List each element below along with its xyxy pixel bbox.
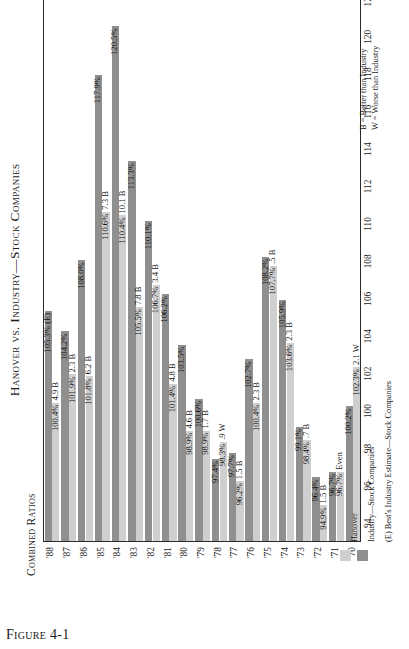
legend-swatch-0	[340, 550, 351, 561]
bar-value-hanover: 103.6%	[286, 345, 294, 372]
bar-value-industry: 113.3%	[127, 163, 135, 189]
category-tick-y83: '83	[129, 547, 139, 579]
bar-hanover: 101.4%4.8 B	[169, 384, 176, 541]
legend-better-than-industry: B = Better than Industry	[359, 49, 368, 130]
bar-value-hanover: 101.9%	[68, 376, 76, 403]
bar-value-hanover: 110.4%	[118, 217, 126, 243]
chart-row: 103.5%98.9%4.6 B	[177, 0, 194, 541]
bar-value-industry: 110.1%	[144, 223, 152, 249]
bar-delta-label: 4.8 B	[168, 363, 176, 384]
bar-delta-label: 2.1 W	[353, 344, 361, 367]
category-tick-y85: '85	[95, 547, 105, 579]
value-tick-104: 104	[363, 329, 373, 343]
plot-area: 100.2%102.3%2.1 W96.7%96.7%Even96.4%94.9…	[43, 0, 361, 542]
bar-delta-label: 4.6 B	[185, 410, 193, 431]
category-tick-y76: '76	[246, 547, 256, 579]
bar-value-hanover: 96.2%	[235, 483, 243, 505]
value-tick-112: 112	[363, 180, 373, 194]
category-tick-y71: '71	[329, 547, 339, 579]
bar-hanover: 106.7%3.4 B	[152, 285, 159, 541]
bar-hanover: 101.9%2.3 B	[68, 374, 75, 541]
figure-caption: Figure 4-1	[6, 627, 70, 643]
chart-row: 106.2%101.4%4.8 B	[161, 0, 178, 541]
bar-hanover: 101.8%6.2 B	[85, 376, 92, 541]
chart-row: 97.7%96.2%1.5 B	[228, 0, 245, 541]
category-tick-y73: '73	[296, 547, 306, 579]
bar-delta-label: .5 B	[269, 250, 277, 266]
legend-label-2: (E) Best's Industry Estimate—Stock Compa…	[384, 381, 393, 542]
bar-value-hanover: 107.7%	[269, 268, 277, 295]
bar-delta-label: 1.5 B	[235, 461, 243, 482]
bar-delta-label: 7.3 B	[102, 191, 110, 212]
bar-delta-label: 1.7 B	[202, 410, 210, 431]
chart-stage: Hanover vs. Industry—Stock Companies Com…	[9, 0, 401, 580]
bar-value-hanover: 100.4%	[51, 405, 59, 432]
chart-row: 99.1%98.4%.7 B	[295, 0, 312, 541]
bar-industry: 120.5%	[111, 26, 118, 541]
bar-value-hanover: 98.4%	[302, 442, 310, 464]
category-tick-y75: '75	[262, 547, 272, 579]
bar-hanover: 96.7%Even	[336, 472, 343, 541]
chart-row: 96.7%96.7%Even	[328, 0, 345, 541]
category-tick-y80: '80	[179, 547, 189, 579]
bar-hanover: 98.4%.7 B	[303, 440, 310, 541]
bar-value-hanover: 102.3%	[353, 369, 361, 396]
value-tick-100: 100	[363, 404, 373, 418]
chart-row: 120.5%110.4%10.1 B	[110, 0, 127, 541]
category-tick-y81: '81	[162, 547, 172, 579]
bar-industry: 106.2%	[161, 294, 168, 541]
bar-hanover: 110.4%10.1 B	[119, 215, 126, 541]
bar-value-industry: 117.9%	[94, 77, 102, 103]
bar-value-hanover: 110.6%	[102, 214, 110, 240]
bar-delta-label: 3.4 B	[152, 264, 160, 285]
bar-delta-label: 2.3 B	[68, 354, 76, 375]
chart-row: 108.2%107.7%.5 B	[261, 0, 278, 541]
figure-caption-number: 4-1	[50, 627, 70, 642]
category-tick-y74: '74	[279, 547, 289, 579]
bar-value-hanover: 94.9%	[319, 507, 327, 529]
chart-row: 117.9%110.6%7.3 B	[94, 0, 111, 541]
legend-label-0: Hanover	[350, 513, 359, 542]
chart-row: 102.7%100.4%2.3 B	[244, 0, 261, 541]
chart-row: 96.4%94.9%1.5 B	[311, 0, 328, 541]
bar-delta-label: .9 W	[219, 423, 227, 442]
bar-hanover: 96.2%1.5 B	[236, 481, 243, 541]
bar-value-hanover: 98.9%	[185, 433, 193, 455]
bar-industry: 117.9%	[94, 75, 101, 541]
chart-row: 108.0%101.8%6.2 B	[77, 0, 94, 541]
bar-hanover: 98.9%4.6 B	[186, 431, 193, 541]
bar-hanover: 105.5%7.8 B	[135, 307, 142, 541]
bar-hanover: 110.6%7.3 B	[102, 212, 109, 541]
bar-hanover: 107.7%.5 B	[269, 266, 276, 541]
category-tick-y86: '86	[78, 547, 88, 579]
bar-value-industry: 105.3% (E)	[44, 313, 52, 353]
category-tick-y82: '82	[145, 547, 155, 579]
bar-industry: 108.2%	[262, 257, 269, 541]
category-tick-y88: '88	[45, 547, 55, 579]
bar-industry: 97.4%	[211, 459, 218, 541]
bar-delta-label: Even	[336, 452, 344, 472]
category-tick-y79: '79	[196, 547, 206, 579]
value-tick-120: 120	[363, 30, 373, 44]
value-tick-122: 122	[363, 0, 373, 6]
value-tick-108: 108	[363, 254, 373, 268]
bar-hanover: 98.9%1.7 B	[202, 431, 209, 541]
chart-row: 113.3%105.5%7.8 B	[127, 0, 144, 541]
legend-worse-than-industry: W = Worse than Industry	[371, 46, 380, 130]
bar-value-industry: 120.5%	[111, 28, 119, 55]
bar-delta-label: 4.9 B	[51, 382, 59, 403]
bar-delta-label: 2.3 B	[252, 382, 260, 403]
category-tick-y78: '78	[212, 547, 222, 579]
bar-value-industry: 106.2%	[161, 296, 169, 323]
legend-label-1: Industry—Stock Companies	[367, 447, 376, 542]
figure-caption-prefix: Figure	[6, 627, 46, 642]
bar-delta-label: 2.3 B	[286, 322, 294, 343]
bar-value-hanover: 106.7%	[152, 287, 160, 314]
bar-value-industry: 108.0%	[77, 262, 85, 289]
bar-delta-label: .7 B	[302, 424, 310, 440]
bar-hanover: 94.9%1.5 B	[319, 505, 326, 541]
bar-value-hanover: 98.3%	[219, 444, 227, 466]
value-tick-102: 102	[363, 367, 373, 381]
category-tick-y77: '77	[229, 547, 239, 579]
category-axis-years: '70'71'72'73'74'75'76'77'78'79'80'81'82'…	[43, 544, 361, 580]
